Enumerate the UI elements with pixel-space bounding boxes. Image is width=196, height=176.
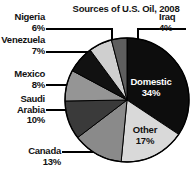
slice-label-other: Other 17% bbox=[125, 124, 165, 146]
callout-iraq: Iraq 4% bbox=[159, 12, 196, 33]
callout-mexico: Mexico 8% bbox=[0, 69, 45, 90]
callout-canada-value: 13% bbox=[0, 157, 61, 168]
callout-saudi-arabia-name-line1: Saudi bbox=[0, 94, 45, 105]
callout-iraq-name: Iraq bbox=[159, 12, 196, 23]
callout-nigeria: Nigeria 6% bbox=[0, 12, 45, 33]
slice-label-domestic: Domestic 34% bbox=[122, 76, 180, 98]
slice-label-other-name: Other bbox=[125, 124, 165, 135]
callout-mexico-value: 8% bbox=[0, 80, 45, 91]
callout-nigeria-value: 6% bbox=[0, 23, 45, 34]
callout-nigeria-name: Nigeria bbox=[0, 12, 45, 23]
callout-saudi-arabia: Saudi Arabia 10% bbox=[0, 94, 45, 126]
slice-label-other-value: 17% bbox=[125, 135, 165, 146]
callout-venezuela-name: Venezuela bbox=[0, 35, 45, 46]
callout-venezuela: Venezuela 7% bbox=[0, 35, 45, 56]
pie-chart-figure: Sources of U.S. Oil, 2008 bbox=[0, 0, 196, 176]
callout-mexico-name: Mexico bbox=[0, 69, 45, 80]
callout-venezuela-value: 7% bbox=[0, 46, 45, 57]
slice-label-domestic-name: Domestic bbox=[122, 76, 180, 87]
slice-label-domestic-value: 34% bbox=[122, 87, 180, 98]
leader-line-nigeria bbox=[46, 29, 112, 43]
callout-canada: Canada 13% bbox=[0, 146, 61, 167]
callout-canada-name: Canada bbox=[0, 146, 61, 157]
callout-saudi-arabia-value: 10% bbox=[0, 115, 45, 126]
callout-iraq-value: 4% bbox=[159, 23, 196, 34]
